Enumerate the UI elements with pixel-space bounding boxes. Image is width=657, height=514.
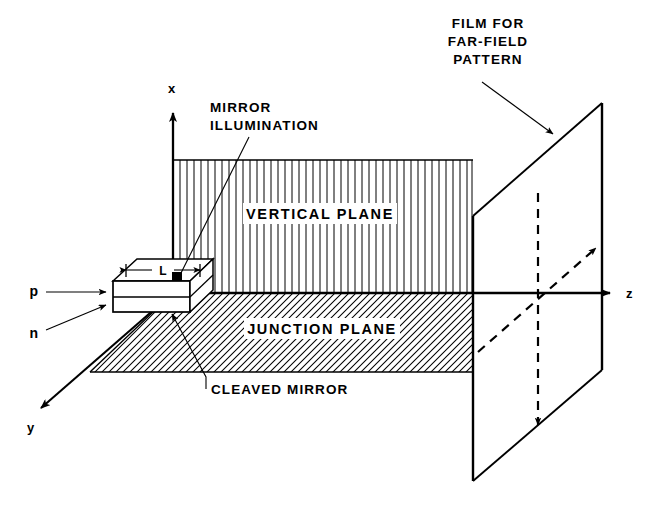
- x-axis-label: x: [168, 81, 176, 96]
- y-axis-label: y: [27, 420, 35, 435]
- cavity-length-label: L: [159, 264, 166, 278]
- junction-plane-label-group: JUNCTION PLANE: [244, 318, 400, 339]
- diagram-canvas: L p n MIRROR ILLUMINATION CLEAVED MIRROR…: [0, 0, 657, 514]
- vertical-plane-label: VERTICAL PLANE: [246, 206, 394, 222]
- z-axis-label: z: [626, 286, 633, 301]
- mirror-illumination-label-line2: ILLUMINATION: [210, 118, 319, 133]
- n-layer-label: n: [29, 325, 38, 341]
- vertical-plane-label-group: VERTICAL PLANE: [243, 203, 397, 224]
- film-label-line3: PATTERN: [453, 52, 522, 67]
- far-field-diagram-figure: L p n MIRROR ILLUMINATION CLEAVED MIRROR…: [0, 0, 657, 514]
- cleaved-mirror-label: CLEAVED MIRROR: [211, 382, 348, 397]
- mirror-illumination-label-line1: MIRROR: [210, 100, 271, 115]
- junction-plane-label: JUNCTION PLANE: [247, 321, 397, 337]
- film-label-line1: FILM FOR: [452, 16, 525, 31]
- p-layer-label: p: [29, 283, 38, 299]
- film-label-line2: FAR-FIELD: [448, 34, 528, 49]
